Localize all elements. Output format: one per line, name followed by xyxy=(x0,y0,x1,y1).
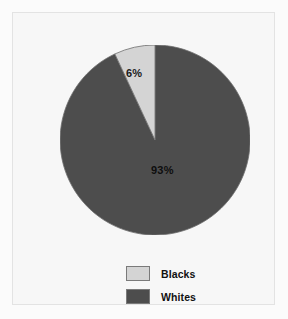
legend-label-whites: Whites xyxy=(161,291,196,303)
legend-item-whites[interactable]: Whites xyxy=(126,287,256,306)
legend-swatch-blacks xyxy=(126,266,150,281)
pie-chart xyxy=(60,45,250,235)
legend-label-blacks: Blacks xyxy=(161,268,195,280)
legend-item-blacks[interactable]: Blacks xyxy=(126,264,256,283)
pie-svg xyxy=(60,45,250,235)
chart-legend: Blacks Whites xyxy=(126,264,256,310)
chart-figure: 6% 93% Blacks Whites xyxy=(0,0,288,319)
pie-label-blacks: 6% xyxy=(126,67,142,79)
legend-swatch-whites xyxy=(126,289,150,304)
pie-label-whites: 93% xyxy=(151,164,174,176)
plot-frame: 6% 93% Blacks Whites xyxy=(12,12,275,305)
